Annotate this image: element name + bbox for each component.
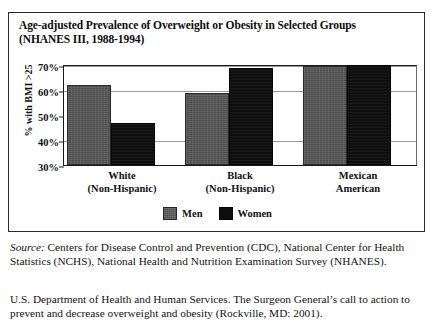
ytick-label-60: 60% [38, 87, 59, 98]
x-label-white: White (Non-Hispanic) [63, 169, 181, 195]
x-label-black-line-2: (Non-Hispanic) [181, 182, 299, 195]
bar-series-container [63, 65, 417, 165]
x-label-mexican-american-line-2: American [299, 182, 417, 195]
reference-note-text: U.S. Department of Health and Human Serv… [10, 293, 410, 319]
bar-black-women[interactable] [229, 68, 273, 166]
x-label-black: Black (Non-Hispanic) [181, 169, 299, 195]
ytick-label-30: 30% [38, 162, 59, 173]
chart-legend: Men Women [9, 207, 426, 220]
legend-swatch-men-icon [163, 207, 177, 220]
ytick-mark-30 [59, 167, 64, 168]
bar-mexican-american-women[interactable] [347, 65, 391, 165]
figure-title-line-1: Age-adjusted Prevalence of Overweight or… [19, 18, 417, 32]
bar-group-white [67, 65, 177, 165]
ytick-label-70: 70% [38, 62, 59, 73]
bar-black-men[interactable] [185, 93, 229, 166]
legend-item-men[interactable]: Men [163, 207, 202, 220]
legend-item-women[interactable]: Women [219, 207, 272, 220]
gridline-30: 30% [64, 166, 416, 167]
figure-title-line-2: (NHANES III, 1988-1994) [19, 32, 417, 46]
legend-label-women: Women [238, 208, 272, 219]
legend-label-men: Men [182, 208, 202, 219]
x-label-mexican-american-line-1: Mexican [299, 169, 417, 182]
x-axis-labels: White (Non-Hispanic) Black (Non-Hispanic… [63, 169, 417, 203]
ytick-label-40: 40% [38, 137, 59, 148]
bar-group-mexican-american [303, 65, 413, 165]
bar-group-black [185, 65, 295, 165]
bar-white-men[interactable] [67, 85, 111, 165]
bar-chart: % with BMI >25 70% 60% 50% 40% 30% [9, 57, 426, 233]
source-label: Source: [10, 241, 45, 253]
x-axis-line [63, 165, 417, 166]
source-text: Centers for Disease Control and Preventi… [10, 241, 404, 267]
x-label-black-line-1: Black [181, 169, 299, 182]
figure-box: Age-adjusted Prevalence of Overweight or… [8, 12, 425, 232]
x-label-mexican-american: Mexican American [299, 169, 417, 195]
x-label-white-line-2: (Non-Hispanic) [63, 182, 181, 195]
y-axis-title: % with BMI >25 [23, 51, 34, 151]
reference-note: U.S. Department of Health and Human Serv… [10, 292, 422, 320]
legend-swatch-women-icon [219, 207, 233, 220]
source-caption: Source: Centers for Disease Control and … [10, 240, 422, 268]
bar-white-women[interactable] [111, 123, 155, 166]
bar-mexican-american-men[interactable] [303, 66, 347, 165]
ytick-label-50: 50% [38, 112, 59, 123]
x-label-white-line-1: White [63, 169, 181, 182]
figure-title: Age-adjusted Prevalence of Overweight or… [19, 18, 417, 46]
